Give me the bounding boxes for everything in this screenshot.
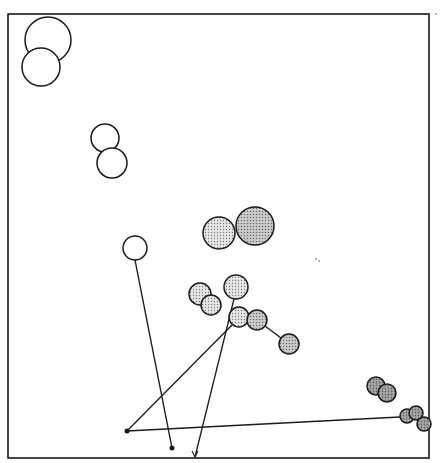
bubble-medium_gray [279,334,299,354]
anchor-dot [125,429,130,434]
bubble-medium_gray [247,310,267,330]
bubble-light_dotted [201,295,221,315]
bubble-open [123,236,147,260]
bubble-diagram [0,0,440,463]
bubble-light_dotted [229,307,249,327]
connector-lines [127,260,400,457]
connector-line [265,326,281,338]
diagram-canvas [0,0,440,463]
bubbles [22,17,431,431]
bubble-dark_gray [417,417,431,431]
bubble-medium_gray [236,207,274,245]
connector-line [135,260,172,448]
speck [435,13,437,15]
arrowhead-icon [192,451,198,457]
bubble-dark_gray [378,384,396,402]
connector-line [127,324,233,431]
bubble-light_dotted [203,217,235,249]
anchor-dot [170,446,175,451]
speck [318,260,320,262]
bubble-light_dotted [224,275,248,299]
speck [315,258,317,260]
bubble-open [22,48,60,86]
connector-line [195,299,234,457]
connector-line [127,417,400,431]
bubble-open [97,148,127,178]
